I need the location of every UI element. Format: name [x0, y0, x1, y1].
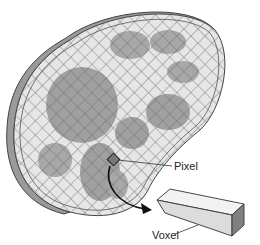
- ct-slice-diagram: Pixel Voxel: [0, 0, 260, 245]
- pixel-label: Pixel: [174, 160, 198, 172]
- voxel-label: Voxel: [152, 229, 179, 241]
